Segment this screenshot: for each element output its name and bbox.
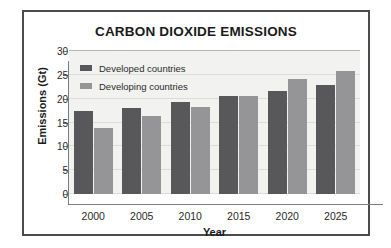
bar-group (312, 51, 361, 194)
chart-frame: CARBON DIOXIDE EMISSIONS 051015202530 Em… (22, 10, 370, 236)
x-axis-tick-label: 2010 (166, 210, 215, 222)
x-axis-tick-label: 2015 (215, 210, 264, 222)
bar-2000-developed (74, 111, 93, 194)
bar-2005-developing (142, 116, 161, 194)
chart-figure: CARBON DIOXIDE EMISSIONS 051015202530 Em… (0, 0, 391, 248)
legend-swatch-icon (80, 83, 92, 89)
x-axis-tick-label: 2000 (69, 210, 118, 222)
x-axis-title: Year (69, 226, 360, 238)
bar-2010-developing (191, 107, 210, 194)
legend-label: Developed countries (99, 63, 186, 74)
bar-2010-developed (171, 102, 190, 194)
x-axis-line (68, 204, 383, 205)
bar-2020-developed (268, 91, 287, 194)
bar-group (215, 51, 264, 194)
chart-title: CARBON DIOXIDE EMISSIONS (24, 24, 368, 39)
plot-area: Developed countriesDeveloping countries (69, 51, 360, 194)
legend-swatch-icon (80, 65, 92, 71)
y-axis-tick-label: 0 (34, 189, 68, 200)
bar-group (263, 51, 312, 194)
bar-2015-developing (239, 96, 258, 194)
legend-item: Developing countries (80, 79, 188, 93)
chart-legend: Developed countriesDeveloping countries (80, 61, 188, 97)
y-axis-tick-label: 5 (34, 165, 68, 176)
legend-label: Developing countries (99, 81, 188, 92)
bar-2025-developed (316, 85, 335, 194)
y-axis-title: Emissions (Gt) (36, 51, 48, 161)
x-axis-tick-label: 2005 (118, 210, 167, 222)
bar-2000-developing (94, 128, 113, 194)
bar-2015-developed (219, 96, 238, 194)
bar-2025-developing (336, 71, 355, 194)
bar-2020-developing (288, 79, 307, 194)
legend-item: Developed countries (80, 61, 188, 75)
x-axis-tick-label: 2025 (312, 210, 361, 222)
x-axis-tick-label: 2020 (263, 210, 312, 222)
bar-2005-developed (122, 108, 141, 194)
